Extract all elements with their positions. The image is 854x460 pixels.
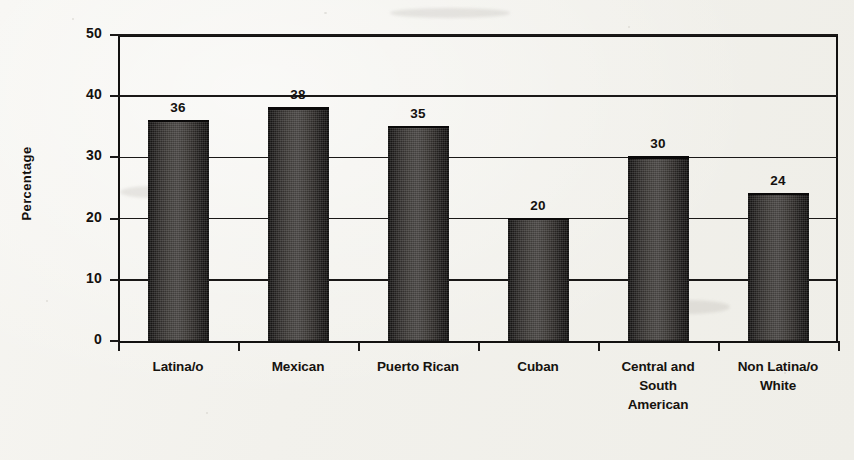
bar-value-label: 24 <box>738 173 818 188</box>
x-axis-tick <box>238 342 240 351</box>
bar-value-label: 36 <box>138 100 218 115</box>
category-label-line: Latina/o <box>116 357 240 376</box>
y-axis-tick-label: 20 <box>56 209 102 225</box>
category-label-line: Mexican <box>236 357 360 376</box>
bar-top-edge <box>748 193 809 195</box>
bar-top-edge <box>388 126 449 128</box>
bar[interactable] <box>628 157 689 341</box>
y-axis-tick-label: 30 <box>56 147 102 163</box>
x-axis-tick <box>598 342 600 351</box>
category-label-line: American <box>596 395 720 414</box>
y-axis-tick <box>110 279 119 281</box>
bar-value-label: 20 <box>498 198 578 213</box>
bar-value-label: 30 <box>618 136 698 151</box>
y-axis-tick <box>110 156 119 158</box>
x-axis-tick <box>478 342 480 351</box>
bar-value-label: 35 <box>378 106 458 121</box>
x-axis-category-label: Cuban <box>476 357 600 376</box>
category-label-line: South <box>596 376 720 395</box>
category-label-line: Cuban <box>476 357 600 376</box>
bar-chart: Percentage 01020304050 363835203024 Lati… <box>0 0 854 460</box>
bar-top-edge <box>148 120 209 122</box>
gridline <box>118 157 838 159</box>
y-axis-title: Percentage <box>19 124 34 244</box>
bar-top-edge <box>508 218 569 220</box>
category-label-line: Central and <box>596 357 720 376</box>
bar-top-edge <box>268 107 329 109</box>
bar[interactable] <box>268 108 329 341</box>
bar-top-edge <box>628 156 689 158</box>
gridline <box>118 218 838 220</box>
y-axis-tick <box>110 218 119 220</box>
bar[interactable] <box>148 121 209 341</box>
plot-frame <box>118 35 838 342</box>
x-axis-category-label: Puerto Rican <box>356 357 480 376</box>
y-axis-tick-label: 50 <box>56 25 102 41</box>
y-axis-tick-label: 40 <box>56 86 102 102</box>
category-label-line: Non Latina/o <box>716 357 840 376</box>
x-axis-tick <box>118 342 120 351</box>
category-label-line: Puerto Rican <box>356 357 480 376</box>
bar[interactable] <box>748 194 809 341</box>
gridline <box>118 279 838 281</box>
y-axis-tick-label: 10 <box>56 270 102 286</box>
bar[interactable] <box>388 127 449 341</box>
x-axis-tick <box>718 342 720 351</box>
x-axis-category-label: Mexican <box>236 357 360 376</box>
gridline <box>118 34 838 36</box>
x-axis-tick <box>358 342 360 351</box>
category-label-line: White <box>716 376 840 395</box>
y-axis-tick <box>110 95 119 97</box>
x-axis-category-label: Non Latina/oWhite <box>716 357 840 395</box>
x-axis-category-label: Latina/o <box>116 357 240 376</box>
x-axis-category-label: Central andSouthAmerican <box>596 357 720 414</box>
gridline <box>118 95 838 97</box>
y-axis-tick-label: 0 <box>56 331 102 347</box>
x-axis-tick <box>838 342 840 351</box>
y-axis-tick <box>110 34 119 36</box>
bar[interactable] <box>508 219 569 341</box>
bar-value-label: 38 <box>258 87 338 102</box>
